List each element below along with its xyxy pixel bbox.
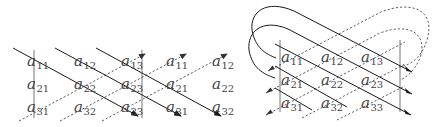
matrix-entry-subscript: 23: [370, 79, 383, 90]
matrix-entry-subscript: 11: [36, 60, 49, 71]
matrix-entry: a12: [74, 52, 96, 71]
positive-diagonal-arrow: [96, 48, 221, 116]
negative-wrapped-diagonal: [302, 64, 405, 118]
matrix-entry: a23: [361, 71, 383, 90]
matrix-entry-subscript: 12: [330, 56, 343, 67]
matrix-entry-subscript: 12: [83, 60, 96, 71]
matrix-entry-subscript: 32: [83, 106, 96, 117]
matrix-entry: a21: [166, 75, 188, 94]
matrix-entry-subscript: 23: [130, 83, 143, 94]
matrix-entry-subscript: 11: [175, 60, 188, 71]
matrix-entry-subscript: 33: [130, 106, 143, 117]
matrix-entry-subscript: 13: [130, 60, 143, 71]
matrix-entry: a32: [74, 98, 96, 117]
diagram-canvas: a11a12a13a11a12a21a22a23a21a22a31a32a33a…: [0, 0, 439, 127]
matrix-entry-subscript: 32: [330, 102, 343, 113]
arrowhead-icon: [266, 88, 273, 94]
matrix-entry: a13: [121, 52, 143, 71]
matrix-entry-subscript: 31: [36, 106, 49, 117]
right-diagram-wrapped: a11a12a13a21a22a23a31a32a33: [249, 6, 429, 120]
matrix-entry: a21: [27, 75, 49, 94]
matrix-entry-subscript: 22: [83, 83, 96, 94]
matrix-entry: a11: [166, 52, 188, 71]
matrix-entry: a32: [321, 94, 343, 113]
determinant-diagram-figure: a11a12a13a11a12a21a22a23a21a22a31a32a33a…: [0, 0, 439, 127]
matrix-entry: a31: [27, 98, 49, 117]
matrix-entry: a31: [166, 98, 188, 117]
matrix-entry-subscript: 22: [221, 83, 234, 94]
matrix-entry-subscript: 31: [175, 106, 188, 117]
matrix-entry-subscript: 21: [290, 79, 303, 90]
matrix-entry: a12: [321, 48, 343, 67]
arrowhead-icon: [268, 66, 275, 72]
matrix-entry-subscript: 22: [330, 79, 343, 90]
matrix-entry: a21: [281, 71, 303, 90]
matrix-entry: a22: [74, 75, 96, 94]
matrix-entry-subscript: 32: [221, 106, 234, 117]
matrix-entry: a22: [212, 75, 234, 94]
matrix-entry: a33: [361, 94, 383, 113]
matrix-entry-subscript: 11: [290, 56, 303, 67]
matrix-entry: a23: [121, 75, 143, 94]
matrix-entry-subscript: 33: [370, 102, 383, 113]
matrix-entry: a12: [212, 52, 234, 71]
arrowhead-icon: [266, 110, 273, 116]
matrix-entry: a11: [281, 48, 303, 67]
matrix-entry: a11: [27, 52, 49, 71]
left-diagram-sarrus: a11a12a13a11a12a21a22a23a21a22a31a32a33a…: [13, 48, 234, 121]
matrix-entry-subscript: 13: [370, 56, 383, 67]
matrix-entry-subscript: 31: [290, 102, 303, 113]
matrix-entry-subscript: 21: [36, 83, 49, 94]
matrix-entry: a32: [212, 98, 234, 117]
matrix-entry-subscript: 12: [221, 60, 234, 71]
matrix-entry-subscript: 21: [175, 83, 188, 94]
